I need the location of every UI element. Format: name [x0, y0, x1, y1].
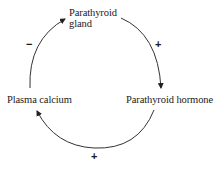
- sign-gland-to-hormone: +: [155, 39, 161, 50]
- node-parathyroid-gland: Parathyroid gland: [69, 7, 117, 29]
- sign-hormone-to-calcium: +: [91, 151, 97, 162]
- node-parathyroid-hormone: Parathyroid hormone: [126, 94, 213, 105]
- node-plasma-calcium: Plasma calcium: [7, 94, 72, 105]
- sign-calcium-to-gland: −: [26, 39, 32, 50]
- arrow-gland-to-hormone: [121, 18, 161, 88]
- feedback-diagram: Parathyroid gland Parathyroid hormone Pl…: [0, 0, 222, 171]
- node-gland-line2: gland: [69, 18, 117, 29]
- node-gland-line1: Parathyroid: [69, 7, 117, 18]
- arrow-calcium-to-gland: [30, 19, 65, 88]
- arrow-hormone-to-calcium: [37, 110, 154, 148]
